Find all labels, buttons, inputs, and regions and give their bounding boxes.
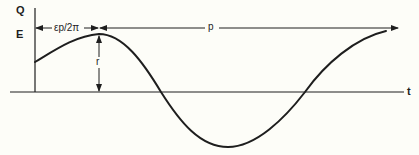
- t-axis-label: t: [407, 86, 411, 97]
- period-label: p: [206, 22, 216, 32]
- amplitude-label: r: [94, 57, 101, 67]
- phase-offset-label: εp/2π: [52, 23, 81, 33]
- q-axis-label: Q: [16, 5, 25, 16]
- diagram-canvas: Q E t εp/2π p r: [0, 0, 419, 155]
- wave-curve: [35, 31, 386, 147]
- e-level-label: E: [16, 29, 23, 40]
